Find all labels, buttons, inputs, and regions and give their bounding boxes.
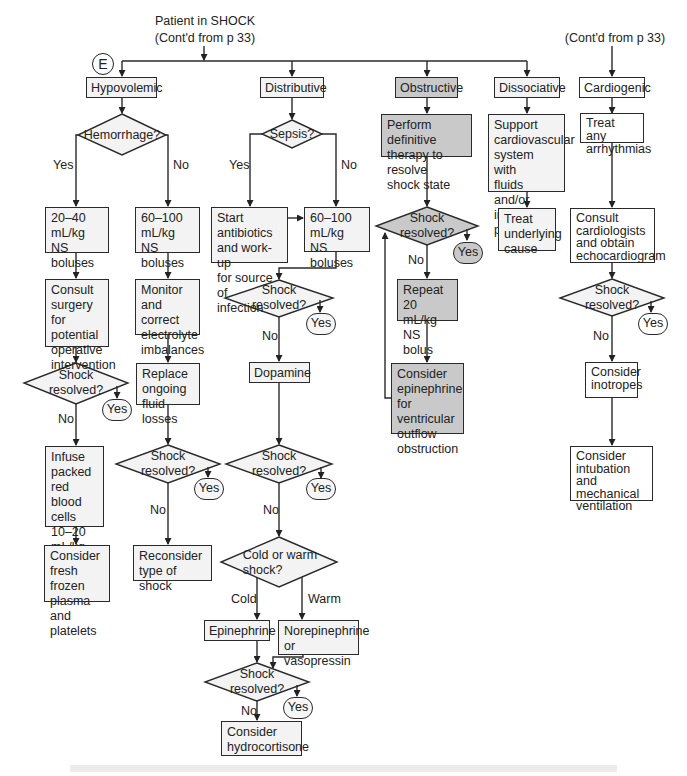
replace-fluid-losses-node: Replace ongoing fluid losses: [136, 363, 200, 405]
warm-label: Warm: [308, 592, 341, 606]
reconsider-type-node: Reconsider type of shock: [133, 545, 212, 581]
cardiogenic-continued-from-note: (Cont'd from p 33): [560, 31, 670, 45]
cardiogenic-resolved-yes-terminal: Yes: [638, 313, 668, 335]
fluid-bolus-60-100-node: 60–100 mL/kg NS boluses: [135, 207, 200, 253]
distributive-shock-resolved-3-decision: Shock resolved?: [215, 673, 299, 691]
distributive-node: Distributive: [260, 77, 324, 98]
distributive-check3-no-label: No: [241, 704, 257, 718]
start-antibiotics-node: Start antibiotics and work-up for source…: [211, 207, 288, 263]
obstructive-node: Obstructive: [395, 77, 458, 98]
cold-label: Cold: [231, 592, 257, 606]
consider-intubation-node: Consider intubation and mechanical venti…: [570, 446, 653, 501]
dissociative-node: Dissociative: [494, 77, 560, 98]
sepsis-decision: Sepsis?: [262, 125, 322, 143]
hypovolemic-node: Hypovolemic: [86, 77, 157, 98]
hemorrhage-yes-label: Yes: [53, 158, 73, 172]
repeat-bolus-node: Repeat 20 mL/kg NS bolus: [397, 279, 458, 321]
distributive-fluid-bolus-node: 60–100 mL/kg NS boluses: [304, 207, 370, 252]
distributive-shock-resolved-1-decision: Shock resolved?: [236, 289, 322, 307]
cardiogenic-no-label: No: [593, 329, 609, 343]
consider-epinephrine-outflow-node: Consider epinephrine for ventricular out…: [391, 363, 464, 434]
section-marker-e: E: [92, 53, 114, 75]
distributive-check2-no-label: No: [263, 503, 279, 517]
distributive-shock-resolved-2-decision: Shock resolved?: [237, 455, 321, 473]
page-footer-bar: [70, 765, 617, 772]
flowchart-title: Patient in SHOCK: [150, 14, 260, 28]
hypovolemic-yes-shock-resolved-decision: Shock resolved?: [34, 374, 118, 392]
epinephrine-node: Epinephrine: [204, 620, 270, 641]
definitive-therapy-node: Perform definitive therapy to resolve sh…: [381, 114, 472, 157]
distributive-check1-no-label: No: [262, 329, 278, 343]
consult-surgery-node: Consult surgery for potential operative …: [45, 279, 109, 347]
treat-arrhythmias-node: Treat any arrhythmias: [580, 113, 644, 143]
fluid-bolus-20-40-node: 20–40 mL/kg NS boluses: [45, 207, 109, 253]
hypovolemic-no-shock-resolved-decision: Shock resolved?: [126, 455, 210, 473]
cardiogenic-node: Cardiogenic: [579, 77, 645, 98]
obstructive-resolved-yes-terminal: Yes: [453, 242, 483, 264]
cardiogenic-shock-resolved-decision: Shock resolved?: [570, 289, 654, 307]
hypovolemic-no-no-label: No: [150, 503, 166, 517]
norepinephrine-vasopressin-node: Norepinephrine or vasopressin: [278, 620, 359, 655]
dopamine-node: Dopamine: [249, 362, 310, 383]
consider-inotropes-node: Consider inotropes: [585, 362, 638, 398]
cold-or-warm-decision: Cold or warm shock?: [242, 547, 318, 579]
distributive-resolved-2-yes-terminal: Yes: [306, 478, 336, 500]
hypovolemic-no-resolved-yes-terminal: Yes: [194, 478, 224, 500]
hemorrhage-decision: Hemorrhage?: [80, 126, 164, 144]
support-cardiovascular-node: Support cardiovascular system with fluid…: [488, 114, 565, 192]
hypovolemic-yes-no-label: No: [58, 412, 74, 426]
distributive-resolved-1-yes-terminal: Yes: [306, 313, 336, 335]
monitor-electrolytes-node: Monitor and correct electrolyte imbalanc…: [135, 279, 200, 335]
sepsis-yes-label: Yes: [229, 158, 249, 172]
distributive-resolved-3-yes-terminal: Yes: [283, 697, 313, 719]
hypovolemic-yes-resolved-yes-terminal: Yes: [102, 399, 132, 421]
treat-underlying-cause-node: Treat underlying cause: [498, 208, 556, 251]
sepsis-no-label: No: [341, 158, 357, 172]
consult-cardiologists-node: Consult cardiologists and obtain echocar…: [570, 208, 655, 263]
consider-ffp-node: Consider fresh frozen plasma and platele…: [44, 545, 110, 602]
infuse-prbc-node: Infuse packed red blood cells 10–20 mL/k…: [45, 446, 104, 527]
consider-hydrocortisone-node: Consider hydrocortisone: [221, 721, 302, 756]
hemorrhage-no-label: No: [173, 158, 189, 172]
obstructive-shock-resolved-decision: Shock resolved?: [385, 217, 469, 235]
continued-from-note: (Cont'd from p 33): [150, 31, 260, 45]
obstructive-no-label: No: [408, 253, 424, 267]
